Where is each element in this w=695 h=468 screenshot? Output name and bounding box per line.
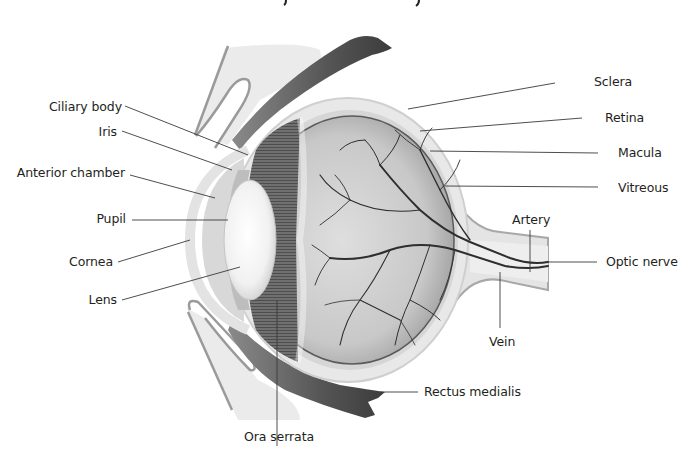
label-rectus-medialis: Rectus medialis	[424, 385, 521, 399]
label-macula: Macula	[618, 146, 662, 160]
label-ciliary-body: Ciliary body	[49, 100, 122, 114]
label-iris: Iris	[99, 125, 117, 139]
label-retina: Retina	[605, 111, 644, 125]
eye-illustration	[0, 0, 695, 468]
label-cornea: Cornea	[69, 255, 113, 269]
label-vitreous: Vitreous	[618, 181, 669, 195]
label-artery: Artery	[512, 213, 550, 227]
label-lens: Lens	[89, 293, 117, 307]
label-ora-serrata: Ora serrata	[244, 430, 314, 444]
label-optic-nerve: Optic nerve	[606, 255, 678, 269]
label-anterior-chamber: Anterior chamber	[17, 166, 125, 180]
label-vein: Vein	[489, 335, 515, 349]
eye-anatomy-diagram: Ciliary body Iris Anterior chamber Pupil…	[0, 0, 695, 468]
label-pupil: Pupil	[96, 212, 126, 226]
lens-shape	[224, 180, 276, 300]
label-sclera: Sclera	[594, 75, 632, 89]
